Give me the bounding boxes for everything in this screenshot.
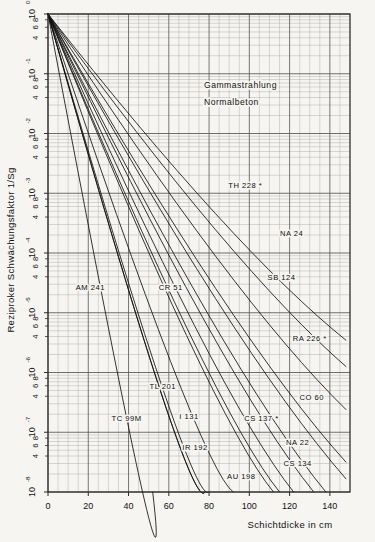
y-decade-exponent: 0: [24, 0, 31, 4]
curve-label-tl-201: TL 201TL 201: [150, 382, 176, 391]
svg-text:4: 4: [31, 454, 40, 458]
chart-page: 020406080100120140 10046810-146810-24681…: [0, 0, 375, 542]
svg-text:8: 8: [31, 137, 40, 141]
y-minor-label: 8: [31, 257, 40, 261]
x-tick-label: 0: [45, 501, 50, 511]
curve-label-sb-124: SB 124SB 124: [268, 273, 296, 282]
x-tick-label: 120: [282, 501, 297, 511]
curve-label-text: CO 60: [300, 393, 324, 402]
y-minor-label: 4: [31, 454, 40, 458]
y-minor-label: 4: [31, 394, 40, 398]
curve-label-na-22: NA 22NA 22: [286, 438, 309, 447]
svg-text:10: 10: [27, 188, 37, 198]
y-minor-label: 8: [31, 137, 40, 141]
annotation-gammastrahlung: Gammastrahlung: [204, 80, 277, 90]
svg-text:6: 6: [31, 264, 40, 268]
attenuation-chart: 020406080100120140 10046810-146810-24681…: [0, 0, 375, 542]
x-tick-label: 80: [204, 501, 214, 511]
y-minor-label: 6: [31, 264, 40, 268]
curve-label-ir-192: IR 192IR 192: [182, 443, 207, 452]
y-minor-label: 6: [31, 384, 40, 388]
curve-label-text: IR 192: [182, 443, 207, 452]
curve-label-text: CS 137 *: [244, 414, 278, 423]
y-minor-label: 6: [31, 25, 40, 29]
curve-label-th-228: TH 228 *TH 228 *: [228, 181, 262, 190]
svg-text:8: 8: [31, 18, 40, 22]
svg-text:6: 6: [31, 204, 40, 208]
y-minor-label: 8: [31, 77, 40, 81]
x-tick-label: 40: [124, 501, 134, 511]
curve-label-am-241: AM 241AM 241: [76, 283, 105, 292]
svg-text:6: 6: [31, 85, 40, 89]
curve-label-co-60: CO 60CO 60: [300, 393, 324, 402]
curve-label-text: CS 134: [283, 459, 311, 468]
svg-text:4: 4: [31, 275, 40, 279]
svg-text:4: 4: [31, 215, 40, 219]
svg-text:8: 8: [31, 436, 40, 440]
svg-text:6: 6: [31, 25, 40, 29]
curve-label-text: TH 228 *: [228, 181, 262, 190]
x-tick-label: 140: [322, 501, 337, 511]
y-minor-label: 4: [31, 36, 40, 40]
curve-label-ra-226: RA 226 *RA 226 *: [293, 334, 327, 343]
svg-text:6: 6: [31, 324, 40, 328]
svg-text:10: 10: [27, 487, 37, 497]
y-decade-exponent: -3: [24, 177, 31, 183]
y-axis-title: Reziproker Schwächungsfaktor 1/Sg: [5, 167, 16, 332]
curve-label-cr-51: CR 51CR 51: [159, 283, 183, 292]
svg-text:8: 8: [31, 77, 40, 81]
svg-text:4: 4: [31, 155, 40, 159]
svg-text:8: 8: [31, 257, 40, 261]
y-minor-label: 4: [31, 334, 40, 338]
svg-text:4: 4: [31, 95, 40, 99]
curve-label-text: TC 99M: [112, 414, 142, 423]
y-decade-exponent: -4: [24, 237, 31, 243]
x-tick-label: 100: [242, 501, 257, 511]
svg-text:10: 10: [27, 9, 37, 19]
curve-label-text: CR 51: [159, 283, 183, 292]
svg-text:10: 10: [27, 427, 37, 437]
y-decade-exponent: -1: [24, 58, 31, 64]
svg-text:10: 10: [27, 248, 37, 258]
svg-text:6: 6: [31, 145, 40, 149]
y-minor-label: 8: [31, 197, 40, 201]
svg-text:4: 4: [31, 36, 40, 40]
y-decade-exponent: -6: [24, 356, 31, 362]
svg-text:10: 10: [27, 69, 37, 79]
y-decade-exponent: -7: [24, 416, 31, 422]
x-tick-label: 60: [164, 501, 174, 511]
curve-label-text: SB 124: [268, 273, 296, 282]
svg-text:8: 8: [31, 316, 40, 320]
curve-label-text: I 131: [179, 412, 198, 421]
curve-label-au-198: AU 198AU 198: [227, 472, 255, 481]
curve-label-cs-134: CS 134CS 134: [283, 459, 311, 468]
y-decade-exponent: -5: [24, 297, 31, 303]
curve-label-text: AM 241: [76, 283, 105, 292]
y-minor-label: 8: [31, 18, 40, 22]
svg-text:8: 8: [31, 197, 40, 201]
y-minor-label: 8: [31, 316, 40, 320]
curve-label-tc-99m: TC 99MTC 99M: [112, 414, 142, 423]
x-axis-title: Schichtdicke in cm: [248, 519, 333, 530]
y-decade-exponent: -2: [24, 117, 31, 123]
y-minor-label: 4: [31, 215, 40, 219]
curve-label-i-131: I 131I 131: [179, 412, 198, 421]
y-decade-exponent: -8: [24, 476, 31, 482]
svg-text:6: 6: [31, 443, 40, 447]
y-minor-label: 8: [31, 376, 40, 380]
svg-text:8: 8: [31, 376, 40, 380]
curve-label-na-24: NA 24NA 24: [280, 229, 303, 238]
curve-label-text: RA 226 *: [293, 334, 327, 343]
curve-label-text: NA 22: [286, 438, 309, 447]
y-minor-label: 4: [31, 155, 40, 159]
curve-label-cs-137: CS 137 *CS 137 *: [244, 414, 278, 423]
y-minor-label: 8: [31, 436, 40, 440]
curve-label-text: AU 198: [227, 472, 255, 481]
x-tick-label: 20: [83, 501, 93, 511]
y-minor-label: 6: [31, 204, 40, 208]
annotation-normalbeton: Normalbeton: [204, 97, 259, 107]
svg-text:4: 4: [31, 334, 40, 338]
svg-text:10: 10: [27, 128, 37, 138]
curve-label-text: NA 24: [280, 229, 303, 238]
svg-text:10: 10: [27, 367, 37, 377]
